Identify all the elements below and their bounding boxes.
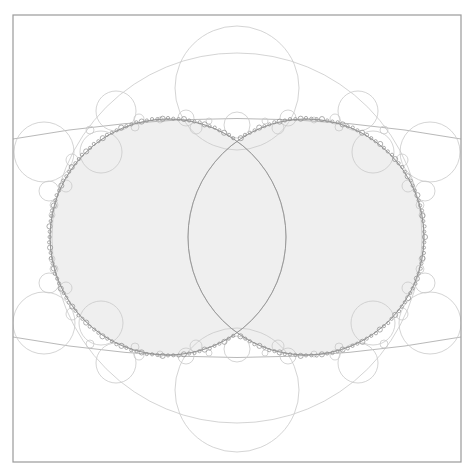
packing-circle [400,122,460,182]
packing-circle [380,340,388,348]
packing-circle [13,292,75,354]
packing-circle [14,122,74,182]
top-cross-arc [13,119,461,140]
filled-region [50,119,424,355]
packing-circle [86,340,94,348]
packing-circle [39,181,59,201]
packing-circle [262,350,268,356]
packing-circle [39,273,59,293]
right-disk [188,119,424,355]
bottom-cross-arc [13,337,461,358]
packing-circle [399,292,461,354]
limit-set-diagram [0,0,475,473]
